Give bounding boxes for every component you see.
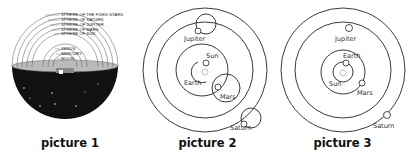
label-sun-sphere: SPHERE OF SUN (61, 31, 95, 36)
label-earth: Earth (184, 79, 201, 87)
picture-2-panel: Jupiter Sun Earth Mars Saturn picture 2 (140, 0, 275, 154)
picture-3-caption: picture 3 (275, 136, 410, 150)
label-moon: MOON (61, 56, 74, 61)
label-mars: Mars (220, 93, 236, 101)
label-saturn: Saturn (373, 122, 394, 130)
label-jupiter: Jupiter (334, 35, 357, 43)
label-jupiter: Jupiter (183, 35, 206, 43)
label-mars: Mars (357, 89, 373, 97)
label-earth: Earth (343, 52, 360, 60)
picture-1-caption: picture 1 (0, 136, 140, 150)
label-saturn: Saturn (230, 124, 251, 132)
label-sun: Sun (329, 80, 341, 88)
tychonic-model-illustration: Jupiter Sun Earth Mars Saturn (140, 0, 275, 154)
heliocentric-model-illustration: Jupiter Earth Sun Mars Saturn (275, 0, 410, 154)
picture-1-panel: SPHERE OF THE FIXED STARS SPHERE OF SATU… (0, 0, 140, 154)
picture-3-panel: Jupiter Earth Sun Mars Saturn picture 3 (275, 0, 410, 154)
picture-2-caption: picture 2 (140, 136, 275, 150)
label-sun: Sun (206, 52, 218, 60)
geocentric-spheres-illustration: SPHERE OF THE FIXED STARS SPHERE OF SATU… (0, 0, 140, 154)
